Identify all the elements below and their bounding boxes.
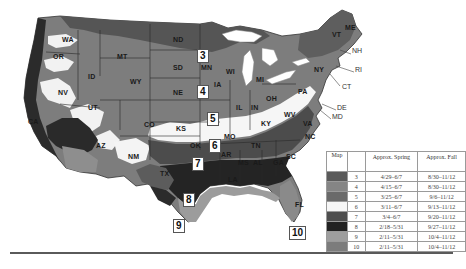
legend-spring: 2/11–5/31 <box>365 242 418 252</box>
zone-marker-10: 10 <box>289 226 306 240</box>
legend-spring: 2/18–5/31 <box>365 222 418 232</box>
state-label-tn: TN <box>251 142 261 149</box>
state-label-sd: SD <box>173 64 183 71</box>
zone-marker-4: 4 <box>197 85 209 99</box>
horizontal-divider <box>10 252 453 254</box>
state-label-wa: WA <box>62 36 74 43</box>
zone-swatch-4 <box>327 182 348 192</box>
legend-row: 10 2/11–5/31 10/4–11/12 <box>327 242 466 252</box>
legend-spring: 2/11–5/31 <box>365 232 418 242</box>
legend-row: 6 3/11–6/7 9/13–11/12 <box>327 202 466 212</box>
legend-row: 7 3/4–6/7 9/20–11/12 <box>327 212 466 222</box>
legend-row: 4 4/15–6/7 8/30–11/12 <box>327 182 466 192</box>
legend-fall: 9/13–11/12 <box>418 202 466 212</box>
zone-swatch-7 <box>327 212 348 222</box>
zone-marker-6: 6 <box>209 139 221 153</box>
state-label-ar: AR <box>221 151 232 158</box>
legend-header-spring: Approx. Spring <box>365 152 418 172</box>
callout-ri: RI <box>355 66 362 73</box>
legend-spring: 4/15–6/7 <box>365 182 418 192</box>
state-label-ky: KY <box>261 120 271 127</box>
legend-fall: 9/6–11/12 <box>418 192 466 202</box>
state-label-wv: WV <box>284 111 296 118</box>
legend-zone: 6 <box>347 202 365 212</box>
legend-zone: 5 <box>347 192 365 202</box>
state-label-ia: IA <box>214 81 221 88</box>
legend-fall: 10/4–11/12 <box>418 232 466 242</box>
state-label-ne: NE <box>173 89 183 96</box>
state-label-ok: OK <box>190 142 201 149</box>
legend-zone: 10 <box>347 242 365 252</box>
legend-zone: 8 <box>347 222 365 232</box>
planting-dates-legend: Map Approx. Spring Approx. Fall 3 4/29–6… <box>326 151 466 252</box>
callout-md: MD <box>332 113 343 120</box>
callout-nh: NH <box>352 47 362 54</box>
state-label-sc: SC <box>286 153 296 160</box>
legend-spring: 4/29–6/7 <box>365 172 418 182</box>
legend-spring: 3/25–6/7 <box>365 192 418 202</box>
state-label-mi: MI <box>256 76 264 83</box>
legend-zone: 7 <box>347 212 365 222</box>
zone-swatch-8 <box>327 222 348 232</box>
legend-header-map: Map <box>327 152 348 172</box>
state-label-oh: OH <box>266 95 277 102</box>
state-label-nd: ND <box>173 36 184 43</box>
state-label-pa: PA <box>298 88 308 95</box>
state-label-fl: FL <box>295 201 304 208</box>
zone-marker-8: 8 <box>183 193 195 207</box>
legend-row: 9 2/11–5/31 10/4–11/12 <box>327 232 466 242</box>
state-label-mt: MT <box>117 53 128 60</box>
state-label-wi: WI <box>226 68 235 75</box>
legend-row: 5 3/25–6/7 9/6–11/12 <box>327 192 466 202</box>
callout-ct: CT <box>342 83 351 90</box>
legend-fall: 9/20–11/12 <box>418 212 466 222</box>
legend-header-fall: Approx. Fall <box>418 152 466 172</box>
legend-fall: 9/27–11/12 <box>418 222 466 232</box>
state-label-wy: WY <box>130 78 142 85</box>
state-label-nc: NC <box>305 133 316 140</box>
legend-fall: 10/4–11/12 <box>418 242 466 252</box>
state-label-vt: VT <box>332 31 341 38</box>
zone-marker-5: 5 <box>207 112 219 126</box>
zone-swatch-6 <box>327 202 348 212</box>
legend-row: 3 4/29–6/7 8/30–11/12 <box>327 172 466 182</box>
zone-swatch-3 <box>327 172 348 182</box>
state-label-mo: MO <box>224 133 236 140</box>
legend-zone: 3 <box>347 172 365 182</box>
legend-row: 8 2/18–5/31 9/27–11/12 <box>327 222 466 232</box>
legend-fall: 8/30–11/12 <box>418 172 466 182</box>
state-label-ks: KS <box>176 125 186 132</box>
legend-zone: 9 <box>347 232 365 242</box>
legend-spring: 3/4–6/7 <box>365 212 418 222</box>
state-label-me: ME <box>345 24 356 31</box>
legend-fall: 8/30–11/12 <box>418 182 466 192</box>
zone-marker-7: 7 <box>192 157 204 171</box>
callout-de: DE <box>337 104 347 111</box>
state-label-nm: NM <box>128 153 139 160</box>
state-label-va: VA <box>303 120 313 127</box>
state-label-ms: MS <box>238 159 249 166</box>
state-label-az: AZ <box>96 142 106 149</box>
state-label-ut: UT <box>88 104 98 111</box>
zone-swatch-5 <box>327 192 348 202</box>
legend-zone: 4 <box>347 182 365 192</box>
state-label-la: LA <box>228 176 238 183</box>
state-label-tx: TX <box>160 170 169 177</box>
state-label-mn: MN <box>201 64 212 71</box>
legend-spring: 3/11–6/7 <box>365 202 418 212</box>
state-label-ca: CA <box>28 118 39 125</box>
legend-header-zone <box>347 152 365 172</box>
state-label-in: IN <box>251 104 258 111</box>
zone-marker-3: 3 <box>197 49 209 63</box>
state-label-al: AL <box>253 159 263 166</box>
zone-swatch-10 <box>327 242 348 252</box>
state-label-or: OR <box>53 53 64 60</box>
legend-header-row: Map Approx. Spring Approx. Fall <box>327 152 466 172</box>
state-label-co: CO <box>144 121 155 128</box>
state-label-il: IL <box>236 104 243 111</box>
zone-marker-9: 9 <box>173 219 185 233</box>
state-label-nv: NV <box>58 89 68 96</box>
state-label-ga: GA <box>273 159 284 166</box>
state-label-id: ID <box>88 73 95 80</box>
zone-swatch-9 <box>327 232 348 242</box>
